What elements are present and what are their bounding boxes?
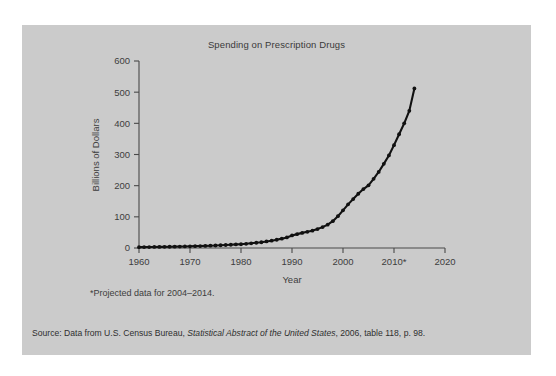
y-tick-label: 600 <box>114 55 130 66</box>
source-citation: Source: Data from U.S. Census Bureau, St… <box>32 328 527 338</box>
data-series-spending <box>137 87 416 250</box>
x-tick-label: 1980 <box>230 256 251 267</box>
data-point-marker <box>331 219 335 223</box>
data-point-marker <box>356 192 360 196</box>
data-point-marker <box>290 234 294 238</box>
data-point-marker <box>295 232 299 236</box>
projection-footnote: *Projected data for 2004–2014. <box>90 288 215 298</box>
data-point-marker <box>305 230 309 234</box>
x-axis: 196019701980199020002010*2020 Year <box>128 248 455 285</box>
figure-panel: Spending on Prescription Drugs 010020030… <box>22 25 531 355</box>
data-point-marker <box>142 245 146 249</box>
data-point-marker <box>326 223 330 227</box>
x-tick-label: 1970 <box>179 256 200 267</box>
data-point-marker <box>387 154 391 158</box>
data-point-marker <box>377 170 381 174</box>
data-point-marker <box>382 162 386 166</box>
data-point-marker <box>214 244 218 248</box>
data-point-marker <box>158 245 162 249</box>
data-point-marker <box>362 187 366 191</box>
data-point-marker <box>397 132 401 136</box>
chart-plot-area: 0100200300400500600 Billions of Dollars … <box>22 25 531 355</box>
data-point-marker <box>316 227 320 231</box>
data-point-marker <box>224 243 228 247</box>
data-point-marker <box>229 243 233 247</box>
source-prefix: Source: Data from U.S. Census Bureau, <box>32 328 187 338</box>
y-tick-label: 200 <box>114 180 130 191</box>
data-point-marker <box>163 245 167 249</box>
x-axis-title: Year <box>282 274 301 285</box>
data-point-marker <box>372 177 376 181</box>
data-point-marker <box>341 208 345 212</box>
y-axis-title: Billions of Dollars <box>90 118 101 191</box>
data-point-marker <box>270 239 274 243</box>
data-point-marker <box>254 241 258 245</box>
data-point-marker <box>244 242 248 246</box>
data-point-marker <box>193 244 197 248</box>
data-point-marker <box>321 225 325 229</box>
data-point-marker <box>203 244 207 248</box>
data-point-marker <box>147 245 151 249</box>
source-title-italic: Statistical Abstract of the United State… <box>187 328 335 338</box>
data-point-marker <box>336 214 340 218</box>
data-point-marker <box>234 243 238 247</box>
data-point-marker <box>402 121 406 125</box>
data-point-marker <box>188 244 192 248</box>
data-point-marker <box>198 244 202 248</box>
y-tick-label: 100 <box>114 211 130 222</box>
data-point-marker <box>260 240 264 244</box>
data-point-marker <box>219 243 223 247</box>
y-tick-label: 500 <box>114 87 130 98</box>
x-tick-label: 1990 <box>281 256 302 267</box>
data-point-marker <box>300 231 304 235</box>
y-tick-label: 0 <box>125 242 130 253</box>
data-point-marker <box>249 241 253 245</box>
data-point-marker <box>168 245 172 249</box>
data-point-marker <box>183 245 187 249</box>
data-point-marker <box>152 245 156 249</box>
x-tick-label: 2020 <box>434 256 455 267</box>
y-tick-label: 400 <box>114 118 130 129</box>
data-point-marker <box>407 109 411 113</box>
data-point-marker <box>178 245 182 249</box>
data-point-marker <box>275 238 279 242</box>
data-point-marker <box>265 240 269 244</box>
x-tick-label: 1960 <box>128 256 149 267</box>
data-point-marker <box>346 202 350 206</box>
data-point-marker <box>137 245 141 249</box>
y-tick-label: 300 <box>114 149 130 160</box>
x-tick-label: 2000 <box>332 256 353 267</box>
data-point-marker <box>413 87 417 91</box>
data-point-marker <box>173 245 177 249</box>
data-point-marker <box>311 229 315 233</box>
data-point-marker <box>367 183 371 187</box>
data-point-marker <box>351 197 355 201</box>
data-point-marker <box>239 242 243 246</box>
data-point-marker <box>209 244 213 248</box>
y-axis: 0100200300400500600 Billions of Dollars <box>90 55 139 253</box>
x-tick-label: 2010* <box>382 256 407 267</box>
data-point-marker <box>280 237 284 241</box>
source-suffix: , 2006, table 118, p. 98. <box>335 328 425 338</box>
data-point-marker <box>285 236 289 240</box>
data-point-marker <box>392 143 396 147</box>
